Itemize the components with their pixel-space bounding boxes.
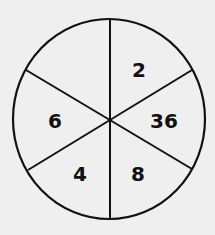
sector-bottom-right-value: 8 [131,164,145,184]
sector-right-value: 36 [150,111,178,131]
circle-diagram [0,0,215,235]
sector-top-right-value: 2 [132,60,146,80]
number-circle-puzzle: 2 36 8 4 6 [0,0,215,235]
sector-left-value: 6 [48,111,62,131]
sector-bottom-left-value: 4 [73,164,87,184]
